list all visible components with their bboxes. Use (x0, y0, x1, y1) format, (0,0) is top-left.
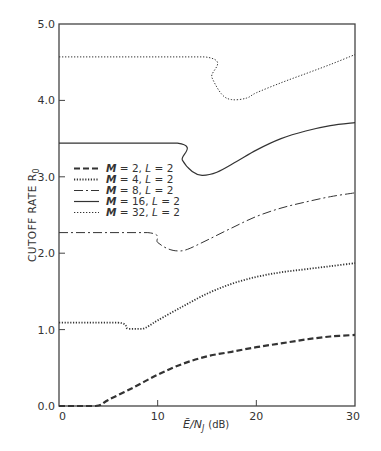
x-tick-label: 10 (151, 410, 165, 423)
y-tick-label: 4.0 (38, 94, 56, 107)
legend: M = 2, L = 2M = 4, L = 2M = 8, L = 2M = … (74, 162, 180, 218)
x-tick-label: 0 (59, 410, 66, 423)
series-line-2 (59, 335, 355, 406)
x-tick-label: 20 (249, 410, 263, 423)
series-line-16 (59, 123, 355, 176)
legend-item: M = 32, L = 2 (106, 206, 180, 218)
series-line-8 (59, 193, 355, 251)
series-group (59, 55, 355, 406)
y-tick-label: 0.0 (38, 400, 56, 413)
x-tick-label: 30 (346, 410, 360, 423)
x-axis-label: Ē/NJ(dB) (183, 418, 229, 433)
y-tick-label: 5.0 (38, 18, 56, 31)
plot-frame (59, 24, 355, 406)
y-tick-label: 2.0 (38, 247, 56, 260)
series-line-4 (59, 263, 355, 329)
cutoff-rate-chart: 0.01.02.03.04.05.0 0102030 M = 2, L = 2M… (0, 0, 381, 451)
y-tick-label: 1.0 (38, 324, 56, 337)
series-line-32 (59, 55, 355, 100)
y-axis: 0.01.02.03.04.05.0 (38, 18, 66, 413)
